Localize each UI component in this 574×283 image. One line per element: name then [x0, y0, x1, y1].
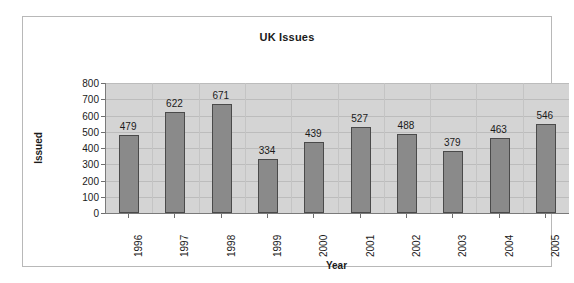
- x-axis-tick-label: 2003: [457, 217, 469, 257]
- x-axis-tick-label: 1998: [226, 217, 238, 257]
- x-axis-tick-label: 1997: [179, 217, 191, 257]
- bar: [165, 112, 185, 213]
- category-separator: [523, 83, 524, 213]
- x-axis-tick-label: 2000: [318, 217, 330, 257]
- bar: [397, 134, 417, 213]
- y-axis-tick-label: 400: [63, 143, 99, 154]
- bar: [304, 142, 324, 213]
- x-axis-tick-label: 2004: [504, 217, 516, 257]
- x-axis-tick-label: 2005: [550, 217, 562, 257]
- category-separator: [199, 83, 200, 213]
- chart-frame: UK Issues Issued 01002003004005006007008…: [22, 16, 552, 267]
- category-separator: [338, 83, 339, 213]
- bar: [351, 127, 371, 213]
- y-axis-tick-mark: [101, 83, 105, 84]
- x-axis-tick-mark: [545, 214, 546, 218]
- bar: [490, 138, 510, 213]
- y-axis-tick-mark: [101, 99, 105, 100]
- bar-value-label: 379: [432, 137, 472, 148]
- bar-value-label: 488: [386, 120, 426, 131]
- y-axis-tick-mark: [101, 197, 105, 198]
- category-separator: [152, 83, 153, 213]
- y-axis-tick-label: 500: [63, 127, 99, 138]
- x-axis-tick-mark: [174, 214, 175, 218]
- bar: [536, 124, 556, 213]
- bar-value-label: 463: [479, 124, 519, 135]
- bar-value-label: 671: [201, 90, 241, 101]
- y-axis-tick-mark: [101, 132, 105, 133]
- chart-title: UK Issues: [23, 31, 551, 43]
- x-axis-tick-mark: [452, 214, 453, 218]
- y-axis-tick-mark: [101, 213, 105, 214]
- bar-value-label: 334: [247, 145, 287, 156]
- y-axis-tick-label: 0: [63, 208, 99, 219]
- category-separator: [245, 83, 246, 213]
- x-axis-tick-mark: [499, 214, 500, 218]
- x-axis-tick-mark: [406, 214, 407, 218]
- y-axis-tick-mark: [101, 181, 105, 182]
- bar: [443, 151, 463, 213]
- bar: [258, 159, 278, 213]
- x-axis-tick-label: 1999: [272, 217, 284, 257]
- bar: [212, 104, 232, 213]
- x-axis-tick-label: 2002: [411, 217, 423, 257]
- bar-value-label: 439: [293, 128, 333, 139]
- x-axis-title: Year: [105, 260, 568, 271]
- y-axis-tick-mark: [101, 164, 105, 165]
- y-axis-tick-labels: 0100200300400500600700800: [63, 77, 99, 219]
- category-separator: [476, 83, 477, 213]
- x-axis-tick-mark: [267, 214, 268, 218]
- x-axis-tick-mark: [221, 214, 222, 218]
- y-axis-tick-label: 800: [63, 78, 99, 89]
- x-axis-tick-label: 2001: [365, 217, 377, 257]
- bar-value-label: 479: [108, 121, 148, 132]
- y-axis-tick-label: 200: [63, 176, 99, 187]
- category-separator: [430, 83, 431, 213]
- x-axis-tick-mark: [128, 214, 129, 218]
- y-axis-tick-mark: [101, 148, 105, 149]
- y-axis-title: Issued: [33, 113, 47, 183]
- x-axis-tick-label: 1996: [133, 217, 145, 257]
- y-axis-tick-label: 600: [63, 111, 99, 122]
- y-axis-tick-mark: [101, 116, 105, 117]
- category-separator: [291, 83, 292, 213]
- y-axis-tick-label: 300: [63, 159, 99, 170]
- bar-value-label: 622: [154, 98, 194, 109]
- x-axis-tick-mark: [313, 214, 314, 218]
- bar-value-label: 546: [525, 110, 565, 121]
- bar-value-label: 527: [340, 113, 380, 124]
- x-axis-tick-mark: [360, 214, 361, 218]
- category-separator: [384, 83, 385, 213]
- y-axis-tick-label: 700: [63, 94, 99, 105]
- y-axis-tick-label: 100: [63, 192, 99, 203]
- bar: [119, 135, 139, 213]
